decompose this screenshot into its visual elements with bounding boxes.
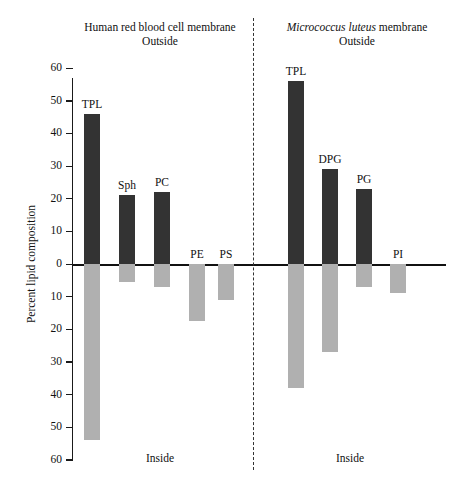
bar-outside-tpl xyxy=(288,81,304,264)
inside-label-left: Inside xyxy=(100,452,220,464)
bar-inside-sph xyxy=(119,264,135,282)
y-tick-mark xyxy=(66,394,73,395)
y-tick-mark xyxy=(66,296,73,297)
bar-label-dpg: DPG xyxy=(305,153,355,165)
bar-outside-tpl xyxy=(84,114,100,264)
bar-outside-dpg xyxy=(322,169,338,264)
bar-inside-tpl xyxy=(84,264,100,440)
y-tick-mark xyxy=(66,264,73,265)
y-tick-label: 60 xyxy=(36,62,62,74)
y-tick-label: 60 xyxy=(36,454,62,466)
panel-title-rest-micrococcus: membrane xyxy=(376,21,427,33)
y-tick-label: 0 xyxy=(36,258,62,270)
bar-label-pg: PG xyxy=(339,173,389,185)
y-tick-label: 50 xyxy=(36,95,62,107)
inside-label-right: Inside xyxy=(290,452,410,464)
y-tick-mark xyxy=(66,361,73,362)
panel-title-text-human: Human red blood cell membrane xyxy=(84,21,235,33)
bar-outside-pg xyxy=(356,189,372,264)
bar-label-tpl: TPL xyxy=(271,65,321,77)
bar-label-tpl: TPL xyxy=(67,98,117,110)
y-tick-label: 10 xyxy=(36,225,62,237)
bar-inside-pi xyxy=(390,264,406,293)
y-tick-mark xyxy=(66,198,73,199)
y-tick-label: 10 xyxy=(36,291,62,303)
y-tick-label: 30 xyxy=(36,356,62,368)
bar-inside-tpl xyxy=(288,264,304,388)
bar-inside-pe xyxy=(189,264,205,321)
bar-outside-pc xyxy=(154,192,170,264)
bar-label-ps: PS xyxy=(201,248,251,260)
y-tick-label: 40 xyxy=(36,127,62,139)
panel-divider xyxy=(253,18,254,470)
y-tick-mark xyxy=(66,68,73,69)
y-tick-mark xyxy=(66,231,73,232)
y-tick-mark xyxy=(66,427,73,428)
y-tick-mark xyxy=(66,133,73,134)
y-tick-mark xyxy=(66,166,73,167)
bar-outside-sph xyxy=(119,195,135,264)
y-tick-label: 20 xyxy=(36,323,62,335)
y-tick-mark xyxy=(66,329,73,330)
y-tick-label: 40 xyxy=(36,389,62,401)
y-tick-mark xyxy=(66,459,73,460)
bar-label-pc: PC xyxy=(137,176,187,188)
bar-inside-dpg xyxy=(322,264,338,352)
y-tick-label: 50 xyxy=(36,421,62,433)
y-tick-label: 20 xyxy=(36,193,62,205)
bar-inside-pg xyxy=(356,264,372,287)
bar-label-pi: PI xyxy=(373,248,423,260)
outside-label-right: Outside xyxy=(262,34,452,48)
panel-title-species-micrococcus: Micrococcus luteus xyxy=(287,21,376,33)
bar-inside-pc xyxy=(154,264,170,287)
bar-inside-ps xyxy=(218,264,234,300)
panel-title-human-rbc: Human red blood cell membrane Outside xyxy=(60,20,260,48)
outside-label-left: Outside xyxy=(60,34,260,48)
y-tick-label: 30 xyxy=(36,160,62,172)
lipid-composition-figure: Human red blood cell membrane Outside Mi… xyxy=(0,0,454,489)
panel-title-micrococcus: Micrococcus luteus membrane Outside xyxy=(262,20,452,48)
y-axis-line xyxy=(72,78,73,460)
